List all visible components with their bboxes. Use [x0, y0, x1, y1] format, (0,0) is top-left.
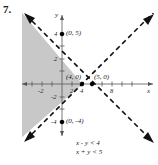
point-0-5 [60, 32, 64, 36]
inequality-1: x - y < 4 [76, 139, 102, 148]
y-tick--4: -4 [51, 119, 56, 126]
inequality-2: x + y < 5 [76, 148, 102, 157]
x-tick-4: 4 [80, 88, 83, 95]
x-tick--2: -2 [38, 88, 43, 95]
exercise-figure: 7. [0, 0, 158, 165]
point-label-0-minus-4: (0, -4) [66, 118, 84, 125]
point-label-4-0: (4, 0) [66, 74, 81, 81]
point-label-0-5: (0, 5) [66, 30, 81, 37]
point-label-5-0: (5, 0) [94, 74, 109, 81]
x-tick-8: 8 [110, 88, 113, 95]
arrow-lower-right-line2 [143, 132, 154, 143]
y-tick-4: 4 [54, 31, 57, 38]
x-axis-label: x [147, 88, 150, 95]
point-0-minus-4 [60, 120, 64, 124]
y-tick--2: -2 [51, 94, 56, 101]
y-tick-2: 2 [54, 56, 57, 63]
point-4-0 [80, 82, 84, 86]
inequality-system: x - y < 4 x + y < 5 [76, 139, 102, 157]
arrow-upper-right-line1 [143, 14, 154, 25]
x-tick-2: 2 [70, 88, 73, 95]
y-axis-label: y [55, 12, 58, 19]
point-5-0 [90, 82, 94, 86]
